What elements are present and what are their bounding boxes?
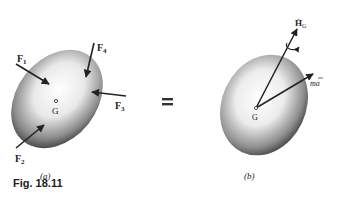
hg-label: ḢG bbox=[295, 18, 307, 29]
figure-caption: Fig. 18.11 bbox=[13, 177, 63, 189]
force-label-f4: F4 bbox=[97, 42, 107, 55]
ma-label: ma bbox=[310, 79, 320, 88]
rigid-body-b bbox=[204, 40, 324, 170]
equals-sign bbox=[162, 98, 173, 105]
g-label-a: G bbox=[52, 106, 59, 116]
force-label-f2: F2 bbox=[15, 153, 25, 166]
force-label-f1: F1 bbox=[17, 53, 27, 66]
panel-a: G F1 F2 F3 F4 (a) bbox=[0, 32, 126, 181]
panel-b: G ḢG ma (b) bbox=[204, 18, 324, 181]
g-label-b: G bbox=[252, 113, 258, 122]
center-of-mass-b bbox=[254, 106, 257, 109]
figure-canvas: G F1 F2 F3 F4 (a) G ḢG ma (b) bbox=[0, 0, 339, 198]
force-label-f3: F3 bbox=[115, 100, 125, 113]
panel-b-label: (b) bbox=[244, 171, 255, 181]
